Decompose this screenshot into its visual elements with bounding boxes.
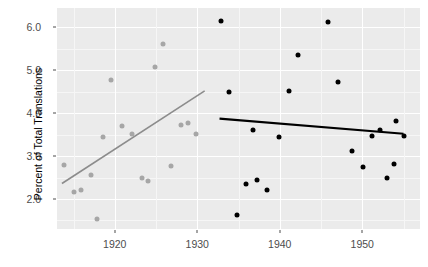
scatter-chart: 2.03.04.05.06.0 Percent of Total Transla…	[0, 0, 428, 267]
x-tick-label: 1920	[103, 238, 126, 250]
x-tick-label: 1930	[186, 238, 209, 250]
x-axis: 1920193019401950	[0, 0, 428, 267]
x-tick-label: 1950	[351, 238, 374, 250]
x-tick-mark	[279, 230, 280, 233]
x-tick-mark	[197, 230, 198, 233]
x-tick-label: 1940	[268, 238, 291, 250]
x-tick-mark	[114, 230, 115, 233]
x-tick-mark	[362, 230, 363, 233]
